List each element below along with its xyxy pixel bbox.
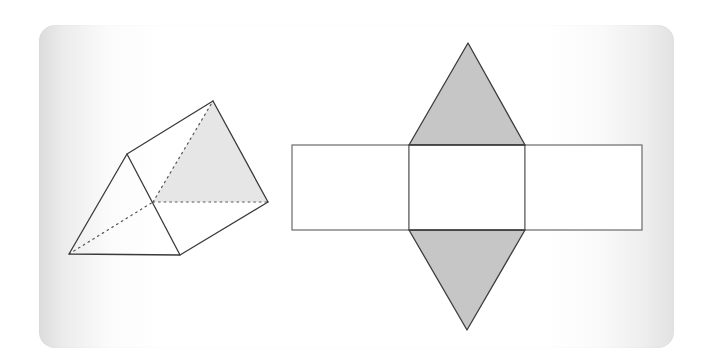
net-right-rectangle	[525, 145, 642, 230]
prism-bottom-right-edge	[180, 202, 268, 255]
net-left-rectangle	[292, 145, 409, 230]
net-middle-rectangle	[409, 145, 525, 230]
prism-back-face-shaded	[153, 101, 268, 202]
hidden-edge-lateral-bottom-left	[69, 202, 153, 254]
prism-and-net-diagram	[0, 0, 704, 359]
prism-front-face	[69, 154, 180, 255]
net-bottom-triangle	[409, 230, 525, 330]
net-top-triangle	[409, 43, 525, 145]
triangular-prism	[69, 101, 268, 255]
prism-net	[292, 43, 642, 330]
